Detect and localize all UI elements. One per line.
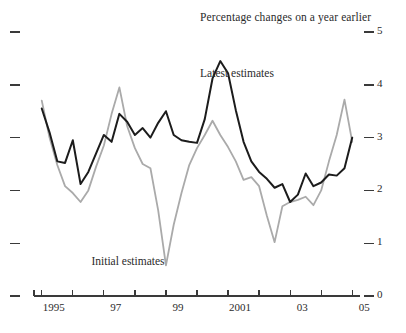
series-line-latest-estimates [42,61,352,202]
series-line-initial-estimates [42,87,352,265]
left-axis-tickmarks [10,32,20,296]
y-axis-label-3: 3 [377,130,383,142]
x-axis-label-97: 97 [93,301,139,313]
x-axis-label-05: 05 [341,301,387,313]
x-axis-tickmarks [34,290,352,296]
data-series-group [42,61,352,265]
annotation-latest-estimates: Latest estimates [200,67,274,79]
y-axis-label-1: 1 [377,235,383,247]
y-axis-label-5: 5 [377,24,383,36]
y-axis-label-4: 4 [377,77,383,89]
x-axis-label-99: 99 [155,301,201,313]
annotation-initial-estimates: Initial estimates [91,255,164,267]
chart-plot-area [0,0,406,333]
chart-container: Percentage changes on a year earlier 012… [0,0,406,333]
y-axis-label-2: 2 [377,182,383,194]
x-axis-label-1995: 1995 [31,301,77,313]
x-axis-label-2001: 2001 [217,301,263,313]
right-axis-tickmarks [364,32,374,296]
x-axis-label-03: 03 [279,301,325,313]
y-axis-label-0: 0 [377,288,383,300]
